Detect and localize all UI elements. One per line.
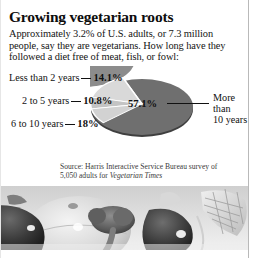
bell-pepper-specular-icon [176, 230, 186, 238]
pie-label-less-than-2-years-text: Less than 2 years [9, 72, 79, 83]
infographic-panel: Growing vegetarian roots Approximately 3… [0, 0, 257, 258]
pie-value-more-than-10-years: 57.1% [128, 98, 157, 109]
pie-label-2-to-5-years: 2 to 5 years10.8% [22, 95, 112, 106]
pie-label-2-to-5-years-text: 2 to 5 years [22, 95, 69, 106]
broccoli-floret-icon [88, 208, 106, 224]
pie-label-more-than-10-years-line3: 10 years [213, 114, 247, 125]
eggplant-specular-icon [27, 225, 35, 231]
page-title: Growing vegetarian roots [9, 8, 239, 25]
pie-label-more-than-10-years: More than 10 years [213, 92, 247, 126]
pie-value-less-than-2-years: 14.1% [93, 72, 122, 83]
onion-specular-icon [73, 223, 83, 231]
pie-value-2-to-5-years: 10.8% [83, 95, 112, 106]
pie-label-more-than-10-years-line1: More [213, 92, 247, 103]
vegetables-photo [1, 186, 248, 252]
leader-line-icon [167, 103, 209, 104]
onion-root-icon [68, 203, 78, 209]
source-note-publication: Vegetarian Times [110, 171, 163, 180]
pie-value-6-to-10-years: 18% [77, 118, 98, 129]
leader-line-icon [81, 78, 91, 79]
pie-label-6-to-10-years: 6 to 10 years18% [11, 118, 99, 129]
pie-chart: Less than 2 years14.1% 2 to 5 years10.8%… [0, 62, 249, 162]
leader-line-icon [71, 101, 81, 102]
broccoli-floret-icon [113, 208, 133, 226]
pie-label-6-to-10-years-text: 6 to 10 years [11, 118, 63, 129]
source-note: Source: Harris Interactive Service Burea… [60, 163, 235, 181]
page-subtitle: Approximately 3.2% of U.S. adults, or 7.… [9, 28, 241, 63]
pie-label-less-than-2-years: Less than 2 years14.1% [9, 72, 123, 83]
photo-bottom-edge [1, 250, 248, 258]
leader-line-icon [65, 124, 75, 125]
vegetables-photo-svg [1, 186, 248, 252]
pie-label-more-than-10-years-line2: than [213, 103, 247, 114]
